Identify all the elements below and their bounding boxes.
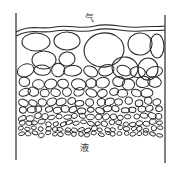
bubble: [156, 120, 162, 125]
bubble: [156, 133, 163, 138]
bubble: [95, 113, 102, 120]
bubble: [117, 131, 122, 135]
bubble: [54, 32, 80, 50]
bubble: [135, 120, 143, 126]
bubble: [144, 104, 154, 113]
bubble: [70, 78, 87, 92]
bubble: [117, 89, 128, 97]
bubble: [110, 131, 116, 137]
bubble: [98, 132, 105, 137]
bubble: [115, 99, 123, 106]
bubble: [35, 106, 42, 113]
bubble: [124, 114, 131, 119]
bubble: [140, 112, 149, 118]
bubble: [152, 98, 161, 106]
bubble: [52, 132, 58, 137]
bubble: [123, 127, 130, 132]
bubble: [87, 107, 94, 113]
bubble: [134, 114, 140, 119]
bubble: [18, 115, 27, 123]
bubble: [85, 98, 94, 107]
bubble: [73, 86, 86, 98]
liquid-label: 液: [80, 144, 89, 153]
bubble: [124, 131, 129, 135]
bubble: [138, 106, 146, 112]
bubble: [75, 100, 84, 106]
bubble: [86, 114, 95, 121]
bubble: [97, 127, 103, 132]
bubble: [136, 131, 142, 136]
bubble: [24, 131, 31, 137]
bubble: [151, 125, 158, 132]
bubble: [109, 119, 115, 125]
bubble: [85, 78, 97, 88]
bubble: [123, 122, 129, 127]
bubble: [27, 86, 40, 98]
bubble: [82, 30, 126, 69]
bubble: [45, 130, 51, 135]
bubble: [31, 130, 38, 136]
bubble: [38, 126, 44, 132]
bubble: [18, 126, 24, 131]
bubble: [136, 126, 143, 132]
bubble: [127, 32, 153, 56]
surface-line: [16, 29, 165, 36]
bubble: [34, 65, 51, 76]
bubble: [65, 119, 73, 125]
bubble: [85, 87, 99, 99]
bubble: [117, 125, 123, 131]
bubble: [117, 114, 124, 120]
bubble: [71, 132, 76, 137]
gas-label: 气: [85, 14, 94, 23]
bubble: [38, 132, 45, 138]
bubble: [84, 132, 90, 137]
bubble: [125, 97, 133, 105]
bubble: [24, 127, 30, 131]
bubble: [96, 88, 108, 99]
foam-surface: [16, 25, 165, 36]
bubble: [57, 132, 64, 137]
bubble: [143, 131, 148, 136]
bubble: [34, 112, 42, 119]
bubble: [156, 106, 163, 112]
bubble: [22, 33, 50, 51]
bubble: [111, 105, 120, 113]
bubble: [80, 120, 86, 124]
bubble: [40, 89, 49, 97]
bubble: [18, 131, 25, 136]
bubble: [73, 121, 80, 126]
bubble: [37, 118, 45, 124]
bubble: [149, 131, 156, 137]
bubble: [110, 113, 117, 120]
bubble: [115, 120, 122, 125]
bubble: [53, 121, 60, 127]
bubble: [130, 131, 137, 136]
bubble: [56, 114, 62, 119]
bubble: [19, 106, 28, 114]
bubble: [63, 114, 72, 119]
bubble: [141, 88, 153, 97]
bubble: [33, 80, 45, 90]
bubble: [31, 126, 36, 130]
bubble: [45, 106, 54, 113]
bubble: [18, 76, 30, 87]
bubble: [95, 76, 111, 89]
bubble: [91, 131, 97, 135]
bubble: [100, 120, 108, 127]
foam-bubbles: [15, 30, 164, 138]
bubble: [19, 119, 26, 126]
bubble: [63, 65, 82, 77]
bubble: [102, 105, 112, 112]
bubble: [58, 51, 76, 67]
bubble: [157, 126, 163, 130]
bubble: [44, 78, 58, 90]
